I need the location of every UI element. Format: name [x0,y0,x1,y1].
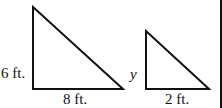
large-triangle [33,7,123,89]
similar-triangles-diagram: 6 ft. 8 ft. y 2 ft. [0,0,222,108]
small-triangle [146,31,209,89]
small-triangle-height-label: y [128,66,137,82]
large-triangle-height-label: 6 ft. [1,65,25,81]
large-triangle-base-label: 8 ft. [63,91,87,107]
small-triangle-base-label: 2 ft. [165,91,189,107]
